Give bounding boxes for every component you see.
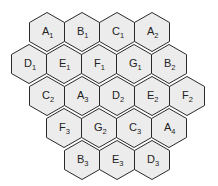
hex-cell-F3: F3 bbox=[47, 109, 82, 148]
hex-cell-E1: E1 bbox=[47, 45, 82, 84]
hex-cell-G1: G1 bbox=[117, 45, 152, 84]
hex-cell-D3: D3 bbox=[135, 141, 170, 180]
hex-cell-A1: A1 bbox=[30, 13, 65, 52]
hex-cell-A2: A2 bbox=[135, 13, 170, 52]
hex-cell-C2: C2 bbox=[30, 77, 65, 116]
hex-cell-F1: F1 bbox=[82, 45, 117, 84]
hex-cell-D2: D2 bbox=[100, 77, 135, 116]
hex-cell-B1: B1 bbox=[65, 13, 100, 52]
hex-cell-F2: F2 bbox=[170, 77, 205, 116]
hex-cell-C3: C3 bbox=[117, 109, 152, 148]
hex-cell-C1: C1 bbox=[100, 13, 135, 52]
hex-cell-G2: G2 bbox=[82, 109, 117, 148]
hex-cell-A4: A4 bbox=[152, 109, 187, 148]
hex-cell-E2: E2 bbox=[135, 77, 170, 116]
hex-cell-E3: E3 bbox=[100, 141, 135, 180]
hex-cell-D1: D1 bbox=[12, 45, 47, 84]
hex-cell-grid: A1B1C1A2D1E1F1G1B2C2A3D2E2F2F3G2C3A4B3E3… bbox=[0, 0, 218, 186]
hex-cell-B3: B3 bbox=[65, 141, 100, 180]
hex-cell-A3: A3 bbox=[65, 77, 100, 116]
hex-cell-B2: B2 bbox=[152, 45, 187, 84]
